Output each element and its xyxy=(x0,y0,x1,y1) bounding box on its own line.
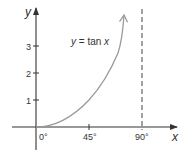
equation-label: y = tan x xyxy=(70,36,110,47)
y-axis-label: y xyxy=(24,5,32,19)
x-tick-label-45: 45° xyxy=(83,132,97,142)
tan-curve xyxy=(36,15,124,127)
x-tick-label-0: 0° xyxy=(39,132,48,142)
y-tick-label-3: 3 xyxy=(26,42,31,52)
tan-graph: y x 3 2 1 0° 45° 90° y = tan x xyxy=(0,0,186,159)
x-tick-label-90: 90° xyxy=(135,132,149,142)
y-tick-label-1: 1 xyxy=(26,96,31,106)
y-tick-label-2: 2 xyxy=(26,69,31,79)
x-axis-label: x xyxy=(171,130,179,144)
